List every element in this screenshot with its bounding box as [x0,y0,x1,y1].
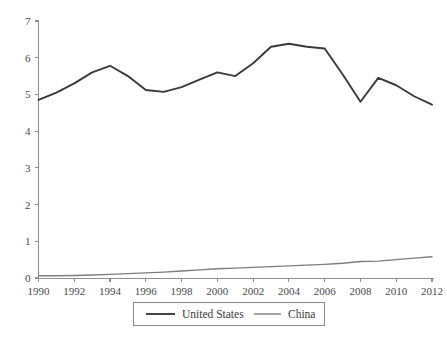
y-tick-label-5: 5 [25,88,31,100]
y-axis-tick-labels: 01234567 [25,15,31,284]
x-tick-label-2002: 2002 [242,285,264,297]
y-tick-label-7: 7 [25,15,31,27]
y-tick-label-1: 1 [25,235,31,247]
legend-label-united-states: United States [182,308,244,320]
x-tick-label-1990: 1990 [28,285,51,297]
y-tick-label-2: 2 [25,199,31,211]
y-tick-label-3: 3 [25,162,31,174]
legend: United States China [134,303,325,326]
legend-label-china: China [288,308,315,320]
x-tick-label-1992: 1992 [63,285,85,297]
y-tick-label-4: 4 [25,125,31,137]
x-tick-label-2004: 2004 [278,285,301,297]
y-axis: 01234567 [25,15,39,284]
data-series-group [39,44,433,276]
line-chart: 01234567 1990199219941996199820002002200… [0,0,447,345]
chart-canvas: 01234567 1990199219941996199820002002200… [0,0,447,345]
y-tick-label-6: 6 [25,52,31,64]
series-line-united-states [39,44,433,105]
x-tick-label-1998: 1998 [171,285,194,297]
x-axis-tick-labels: 1990199219941996199820002002200420062008… [28,285,444,297]
x-tick-label-2012: 2012 [421,285,443,297]
x-tick-label-2000: 2000 [206,285,229,297]
x-tick-label-2008: 2008 [349,285,372,297]
y-axis-ticks [35,21,39,278]
x-tick-label-2010: 2010 [385,285,408,297]
x-axis: 1990199219941996199820002002200420062008… [28,278,444,297]
series-line-china [39,257,433,276]
y-tick-label-0: 0 [25,272,31,284]
x-tick-label-1994: 1994 [99,285,122,297]
x-tick-label-1996: 1996 [135,285,158,297]
x-tick-label-2006: 2006 [314,285,337,297]
